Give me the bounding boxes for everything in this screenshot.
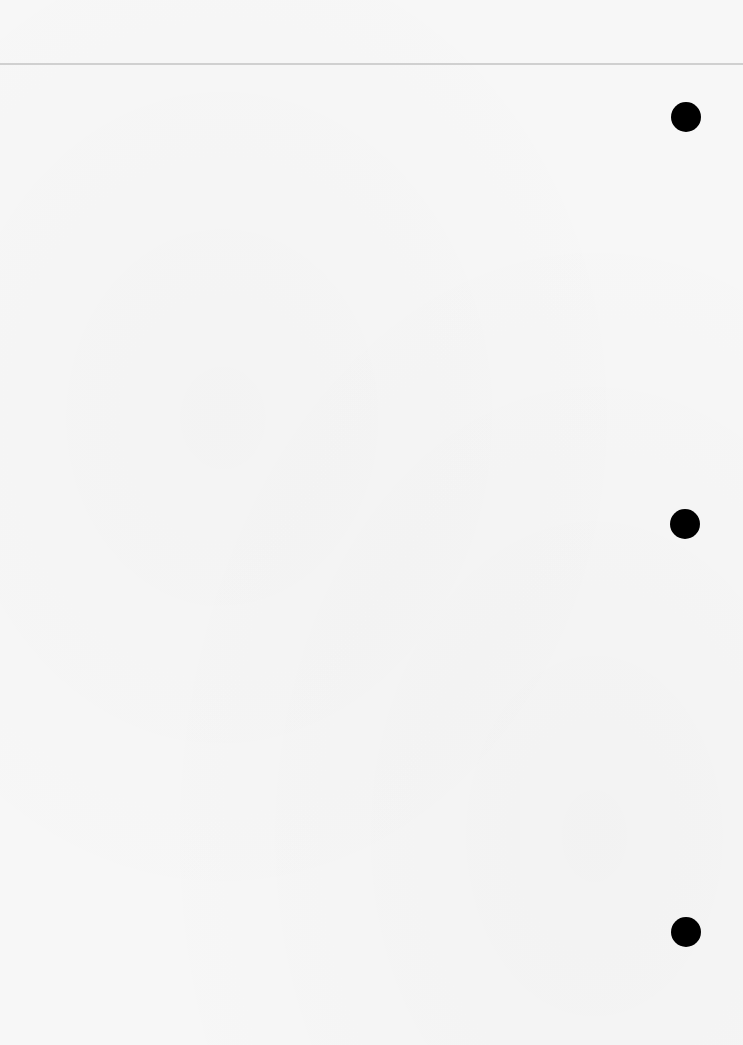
punch-hole-bottom <box>671 917 701 947</box>
punch-hole-middle <box>670 509 700 539</box>
punch-hole-top <box>671 102 701 132</box>
notepad-page <box>0 0 743 1045</box>
header-rule-line <box>0 63 743 65</box>
